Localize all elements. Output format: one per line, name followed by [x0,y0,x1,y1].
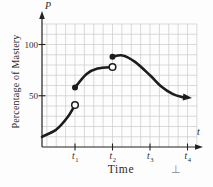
y-tick-label-50: 50 [18,91,38,101]
x-axis-title: Time [85,164,157,175]
x-axis-symbol: t [197,126,200,137]
y-axis-arrow [39,11,45,19]
x-axis-arrow [195,144,203,150]
mastery-vs-time-figure: P t 50100 t1t2t3t4 Time Percentage of Ma… [0,0,213,187]
closed-endpoint [110,54,116,60]
x-tick-label-t4: t4 [179,150,197,163]
perpendicular-mark-artifact: ⊥ [171,164,181,175]
x-tick-label-t2: t2 [104,150,122,163]
closed-endpoint [72,85,78,91]
x-tick-label-t3: t3 [141,150,159,163]
y-tick-label-100: 100 [18,40,38,50]
open-endpoint [109,64,116,71]
x-tick-label-t1: t1 [66,150,84,163]
y-axis-title: Percentage of Mastery [10,12,21,152]
open-endpoint [72,102,79,109]
y-axis-symbol: P [45,0,51,11]
